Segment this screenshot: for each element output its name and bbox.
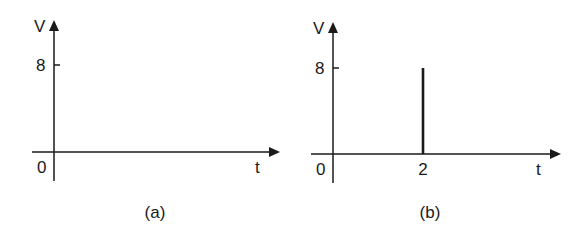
y-axis-arrow-icon <box>49 20 59 31</box>
x-axis-arrow-icon <box>269 147 280 157</box>
x-axis-label: t <box>536 160 541 179</box>
panel-a: V 8 0 t (a) <box>32 17 280 222</box>
y-tick-label-8: 8 <box>36 56 45 75</box>
panel-b: V 8 0 2 t (b) <box>311 19 561 222</box>
origin-label: 0 <box>37 158 46 177</box>
origin-label: 0 <box>316 160 325 179</box>
figure: V 8 0 t (a) V 8 0 2 t (b) <box>0 0 588 242</box>
panel-caption: (b) <box>420 203 441 222</box>
y-tick-label-8: 8 <box>315 59 324 78</box>
x-axis-arrow-icon <box>550 149 561 159</box>
y-axis-label: V <box>34 17 46 36</box>
x-tick-label-2: 2 <box>418 160 427 179</box>
panel-caption: (a) <box>145 203 166 222</box>
x-axis-label: t <box>255 158 260 177</box>
y-axis-arrow-icon <box>328 22 338 33</box>
y-axis-label: V <box>313 19 325 38</box>
